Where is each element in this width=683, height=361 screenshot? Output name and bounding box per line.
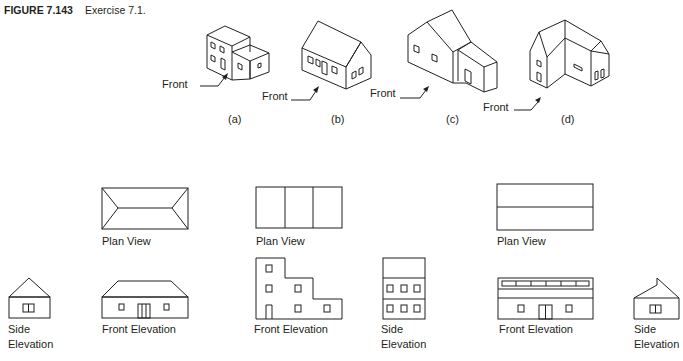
pictorial-a-label: (a): [228, 112, 241, 126]
set1-side-elevation: [9, 278, 50, 318]
set1-plan-view: [102, 188, 188, 229]
pictorial-a-drawing: [200, 26, 269, 86]
set2-side-elevation-label-line1: Side: [381, 322, 403, 336]
set3-plan-view-label: Plan View: [497, 234, 546, 248]
pictorial-b-label: (b): [331, 112, 344, 126]
set2-plan-view-label: Plan View: [256, 234, 305, 248]
set3-side-elevation: [634, 278, 679, 319]
set2-side-elevation: [383, 258, 425, 319]
set1-front-elevation: [102, 281, 188, 318]
pictorial-d-drawing: [514, 20, 609, 110]
set2-front-elevation: [256, 258, 342, 319]
pictorial-a-front-label: Front: [162, 77, 188, 91]
drawing-canvas: [0, 0, 683, 361]
set3-side-elevation-label-line1: Side: [634, 322, 656, 336]
set3-front-elevation: [498, 278, 593, 319]
pictorial-c-front-label: Front: [370, 86, 396, 100]
pictorial-d-front-label: Front: [483, 100, 509, 114]
pictorial-d-label: (d): [561, 112, 574, 126]
set1-side-elevation-label-line2: Elevation: [8, 337, 53, 351]
set3-side-elevation-label-line2: Elevation: [634, 337, 679, 351]
pictorial-b-drawing: [291, 21, 371, 100]
set3-front-elevation-label: Front Elevation: [499, 322, 573, 336]
set1-side-elevation-label-line1: Side: [8, 322, 30, 336]
set2-side-elevation-label-line2: Elevation: [381, 337, 426, 351]
set3-plan-view: [497, 184, 593, 230]
set2-plan-view: [256, 187, 342, 228]
pictorial-c-label: (c): [446, 112, 459, 126]
pictorial-c-drawing: [400, 10, 497, 98]
set1-plan-view-label: Plan View: [102, 234, 151, 248]
set1-front-elevation-label: Front Elevation: [102, 322, 176, 336]
pictorial-b-front-label: Front: [262, 89, 288, 103]
set2-front-elevation-label: Front Elevation: [254, 322, 328, 336]
